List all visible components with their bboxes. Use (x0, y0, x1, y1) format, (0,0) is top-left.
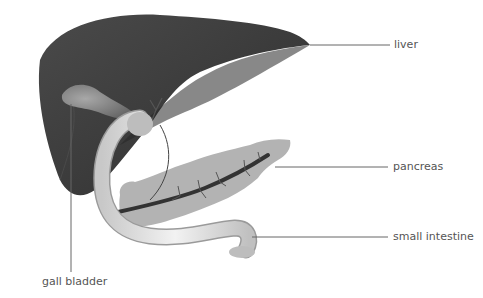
pancreas (119, 139, 290, 226)
stomach-outlet (127, 112, 153, 136)
small-intestine-label: small intestine (393, 230, 474, 243)
liver-label: liver (394, 38, 418, 51)
pancreas-label: pancreas (393, 160, 443, 173)
intestine-end (229, 246, 255, 258)
gall-bladder-label: gall bladder (42, 275, 107, 288)
